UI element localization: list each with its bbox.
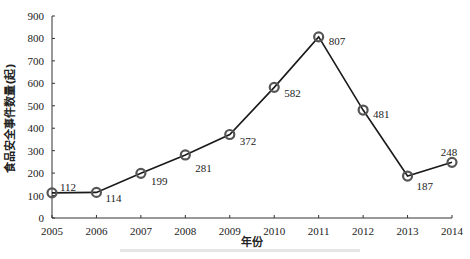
x-tick-label: 2012: [352, 225, 374, 237]
y-tick-label: 200: [28, 167, 45, 179]
data-label: 199: [151, 175, 168, 187]
data-label: 372: [240, 135, 257, 147]
y-tick-label: 400: [28, 122, 45, 134]
x-tick-label: 2008: [174, 225, 197, 237]
data-label: 187: [417, 180, 434, 192]
figure-caption-faded: [120, 249, 360, 252]
x-tick-label: 2014: [441, 225, 464, 237]
data-label: 112: [60, 181, 76, 193]
data-label: 281: [195, 162, 212, 174]
y-tick-label: 300: [28, 145, 45, 157]
y-axis-title: 食品安全事件数量(起): [3, 63, 17, 172]
y-axis: 0100200300400500600700800900: [28, 10, 56, 224]
x-tick-label: 2005: [41, 225, 64, 237]
x-tick-label: 2009: [219, 225, 242, 237]
x-tick-label: 2013: [397, 225, 420, 237]
data-label: 481: [373, 108, 390, 120]
y-tick-label: 600: [28, 77, 45, 89]
y-tick-label: 0: [39, 212, 45, 224]
x-tick-label: 2006: [85, 225, 108, 237]
y-tick-label: 500: [28, 100, 45, 112]
data-label: 807: [329, 35, 346, 47]
x-axis: 2005200620072008200920102011201220132014: [41, 215, 464, 237]
y-tick-label: 100: [28, 190, 45, 202]
data-label: 582: [284, 87, 301, 99]
data-series: [48, 32, 457, 197]
x-axis-title: 年份: [241, 235, 264, 249]
y-tick-label: 900: [28, 10, 45, 22]
y-tick-label: 700: [28, 55, 45, 67]
x-tick-label: 2011: [308, 225, 330, 237]
data-labels: 112114199281372582807481187248: [60, 35, 458, 205]
line-chart: 0100200300400500600700800900 20052006200…: [0, 0, 470, 259]
data-label: 248: [441, 146, 458, 158]
y-tick-label: 800: [28, 32, 45, 44]
x-tick-label: 2010: [263, 225, 286, 237]
data-label: 114: [105, 192, 122, 204]
x-tick-label: 2007: [130, 225, 153, 237]
